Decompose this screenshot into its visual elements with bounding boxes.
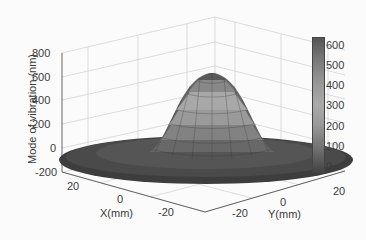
x-tick: 20: [67, 180, 79, 192]
x-tick: 0: [117, 193, 123, 205]
z-tick: 600: [32, 71, 50, 83]
colorbar-tick: 600: [326, 39, 344, 51]
y-axis-label: Y(mm): [268, 208, 301, 220]
colorbar-tick: 400: [326, 79, 344, 91]
y-tick: 0: [280, 196, 286, 208]
z-tick: 200: [32, 118, 50, 130]
x-tick: -20: [158, 206, 174, 218]
colorbar-tick: 200: [326, 120, 344, 132]
z-axis-label: Mode of vibration (nm): [26, 39, 38, 179]
colorbar-tick: 0: [326, 160, 332, 172]
colorbar-tick: 300: [326, 99, 344, 111]
colorbar: [312, 37, 325, 173]
z-tick: -200: [35, 166, 57, 178]
y-tick: -20: [232, 207, 248, 219]
z-tick: 800: [32, 47, 50, 59]
z-tick: 400: [32, 94, 50, 106]
y-tick: 20: [333, 185, 345, 197]
z-tick: 0: [50, 142, 56, 154]
colorbar-tick: 100: [326, 140, 344, 152]
x-axis-label: X(mm): [100, 207, 133, 219]
colorbar-tick: 500: [326, 59, 344, 71]
